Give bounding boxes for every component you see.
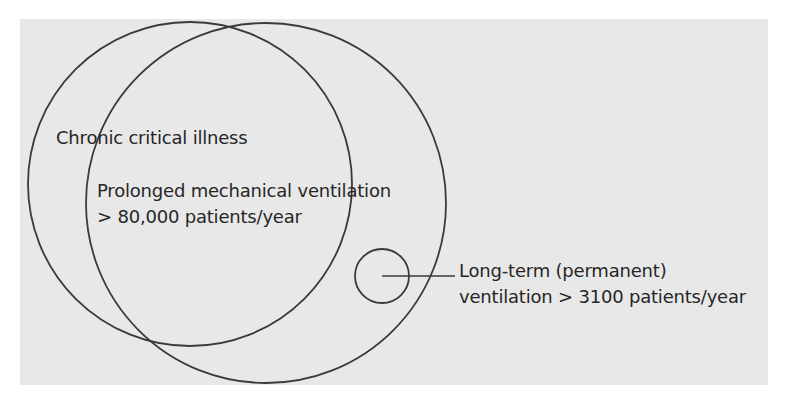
label-line: Prolonged mechanical ventilation <box>97 178 391 204</box>
label-line: ventilation > 3100 patients/year <box>459 284 746 310</box>
label-line: Long-term (permanent) <box>459 258 746 284</box>
label-long-term-ventilation: Long-term (permanent) ventilation > 3100… <box>459 258 746 310</box>
label-chronic-critical-illness: Chronic critical illness <box>56 125 247 151</box>
label-prolonged-mechanical-ventilation: Prolonged mechanical ventilation > 80,00… <box>97 178 391 230</box>
label-line: Chronic critical illness <box>56 125 247 151</box>
label-line: > 80,000 patients/year <box>97 204 391 230</box>
